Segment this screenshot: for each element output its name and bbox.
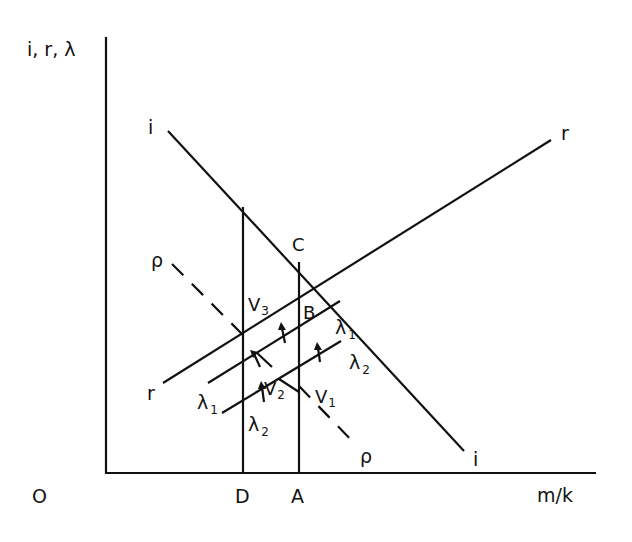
x-axis-label: m/k (537, 484, 573, 506)
point-B: B (303, 302, 315, 323)
origin-label: O (32, 485, 47, 507)
tick-D: D (235, 485, 250, 507)
r-curve-label-end: r (561, 122, 569, 144)
lambda1-label-left: λ1 (197, 391, 218, 417)
rho-label-end: ρ (360, 445, 372, 467)
i-curve-label-end: i (473, 448, 478, 470)
rho-label-start: ρ (151, 249, 163, 271)
y-axis-label: i, r, λ (27, 38, 76, 60)
r-curve (163, 140, 551, 383)
lambda2-label-left: λ2 (248, 413, 269, 439)
r-curve-label-start: r (147, 382, 155, 404)
lambda2-label-right: λ2 (349, 351, 370, 377)
point-C: C (292, 234, 305, 255)
i-curve-label-start: i (148, 116, 153, 138)
economic-diagram: i, r, λ m/k O D A i i r r λ1 λ1 λ2 λ2 ρ … (0, 0, 632, 542)
lambda1-label-right: λ1 (335, 316, 356, 342)
tick-A: A (291, 485, 304, 507)
rho-line-lower (299, 386, 357, 446)
rho-line-upper (172, 264, 243, 335)
point-V3: V3 (248, 294, 269, 318)
point-V1: V1 (315, 386, 336, 410)
